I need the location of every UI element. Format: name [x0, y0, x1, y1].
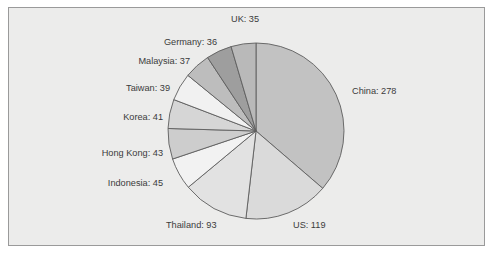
pie-label-indonesia: Indonesia: 45 [108, 178, 163, 188]
pie-label-thailand: Thailand: 93 [166, 220, 217, 230]
pie-label-malaysia: Malaysia: 37 [138, 56, 190, 66]
pie-chart-canvas: China: 278US: 119Thailand: 93Indonesia: … [0, 0, 495, 255]
pie-label-us: US: 119 [293, 220, 326, 230]
pie-chart-figure: China: 278US: 119Thailand: 93Indonesia: … [0, 0, 495, 255]
pie-label-hong-kong: Hong Kong: 43 [102, 148, 163, 158]
pie-label-uk: UK: 35 [231, 14, 259, 24]
pie-label-germany: Germany: 36 [164, 37, 217, 47]
pie-label-korea: Korea: 41 [123, 112, 163, 122]
pie-label-china: China: 278 [352, 86, 396, 96]
pie-label-taiwan: Taiwan: 39 [126, 83, 170, 93]
pie-slices-group [168, 43, 344, 219]
